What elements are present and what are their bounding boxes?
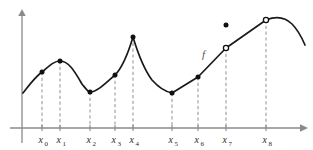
- point-marker-x7-removable-discontinuity-value: [224, 23, 229, 28]
- graph-canvas: f x0x1x2x3x4x5x6x7x8: [0, 0, 313, 150]
- figure-root: f x0x1x2x3x4x5x6x7x8: [0, 0, 313, 150]
- tick-label-base: x: [56, 134, 62, 145]
- tick-label-x2: x2: [86, 134, 97, 148]
- tick-label-x0: x0: [38, 134, 49, 148]
- point-marker-x3-rising-point: [113, 73, 118, 78]
- tick-label-subscript: 2: [93, 140, 97, 148]
- point-marker-x7-removable-discontinuity-hole: [223, 45, 228, 50]
- point-marker-x8-endpoint-hole: [263, 17, 268, 22]
- tick-label-subscript: 4: [136, 140, 140, 148]
- tick-label-subscript: 5: [175, 140, 179, 148]
- tick-label-subscript: 3: [118, 140, 122, 148]
- point-marker-x5-local-minimum: [170, 91, 175, 96]
- x-tick-labels-group: x0x1x2x3x4x5x6x7x8: [38, 134, 273, 148]
- point-marker-x4-cusp-maximum: [131, 35, 136, 40]
- tick-label-subscript: 8: [269, 140, 273, 148]
- tick-label-x8: x8: [262, 134, 273, 148]
- point-marker-x1-local-maximum: [58, 59, 63, 64]
- tick-label-x1: x1: [56, 134, 67, 148]
- tick-label-subscript: 6: [201, 140, 205, 148]
- tick-label-base: x: [168, 134, 174, 145]
- tick-label-x7: x7: [222, 134, 233, 148]
- function-curve: [23, 18, 305, 93]
- tick-label-base: x: [38, 134, 44, 145]
- tick-label-base: x: [194, 134, 200, 145]
- axes-group: [10, 9, 308, 143]
- tick-label-base: x: [111, 134, 117, 145]
- x-axis-arrowhead: [300, 124, 308, 132]
- tick-label-base: x: [86, 134, 92, 145]
- tick-label-base: x: [129, 134, 135, 145]
- point-marker-x2-local-minimum: [88, 90, 93, 95]
- function-label: f: [202, 48, 207, 60]
- tick-label-x5: x5: [168, 134, 179, 148]
- tick-label-subscript: 7: [229, 140, 233, 148]
- tick-label-subscript: 1: [63, 140, 67, 148]
- tick-label-x3: x3: [111, 134, 122, 148]
- marked-points-group: [40, 17, 269, 95]
- y-axis-arrowhead: [18, 9, 25, 16]
- tick-label-subscript: 0: [45, 140, 49, 148]
- tick-label-base: x: [262, 134, 268, 145]
- tick-label-x4: x4: [129, 134, 140, 148]
- tick-label-x6: x6: [194, 134, 205, 148]
- point-marker-x0-rising-point: [40, 70, 45, 75]
- point-marker-x6-corner-point: [196, 75, 201, 80]
- tick-label-base: x: [222, 134, 228, 145]
